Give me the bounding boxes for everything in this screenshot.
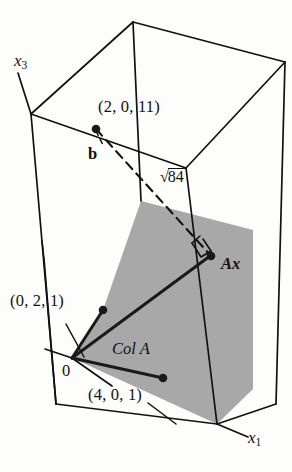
x1-axis-label: x1: [248, 429, 261, 448]
leader-x3-upper: [42, 241, 44, 259]
point-b-name-label: b: [88, 146, 97, 163]
point-ax: [207, 252, 216, 261]
point-basis2: [159, 374, 168, 383]
x3-axis-down-segment: [44, 259, 56, 404]
box-vertical-edge-right: [276, 62, 285, 404]
linear-algebra-diagram: [0, 0, 292, 472]
radical-symbol-group: √84: [160, 168, 185, 185]
basis-vector-2-label: (4, 0, 1): [88, 387, 142, 404]
box-top-face-edge-back-right: [133, 22, 285, 62]
distance-label: √84: [160, 168, 185, 185]
x3-axis-ray: [18, 73, 31, 114]
leader-basis2-label: [148, 403, 176, 424]
x2-axis-ray: [45, 349, 72, 358]
col-a-label: Col A: [112, 341, 150, 358]
origin-label: 0: [62, 363, 70, 380]
box-top-face-edge-front-left: [31, 114, 186, 168]
radical-radicand: 84: [168, 168, 185, 185]
projection-ax-label: Ax: [221, 256, 240, 273]
figure-container: x3 x1 (2, 0, 11) b √84 Ax Col A 0 (0, 2,…: [0, 0, 292, 472]
point-basis1: [99, 306, 108, 315]
box-top-face-edge-right-front: [186, 62, 285, 168]
point-b-coordinate-label: (2, 0, 11): [98, 99, 160, 116]
x1-axis-ray: [217, 424, 248, 437]
point-b: [92, 125, 101, 134]
x3-axis-label: x3: [14, 52, 27, 71]
basis-vector-1-label: (0, 2, 1): [10, 293, 64, 310]
